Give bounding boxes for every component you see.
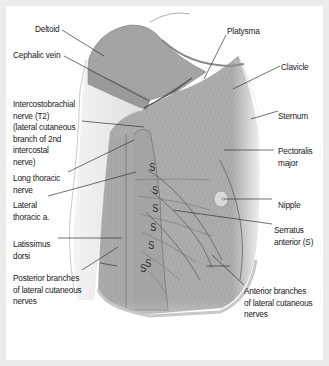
label-nipple: Nipple <box>278 199 300 211</box>
serratus-marker: S <box>148 240 154 251</box>
serratus-marker: S <box>152 185 158 196</box>
label-lateral-thoracic-artery: Lateral thoracic a. <box>13 199 49 222</box>
serratus-marker: S <box>150 222 156 233</box>
serratus-marker: S <box>140 263 146 274</box>
label-cephalic-vein: Cephalic vein <box>13 49 60 61</box>
label-serratus-anterior: Serratus anterior (S) <box>274 224 313 247</box>
label-pectoralis-major: Pectoralis major <box>278 145 313 168</box>
figure-panel: Deltoid Cephalic vein Intercostobrachial… <box>6 6 323 360</box>
serratus-marker: S <box>152 203 158 214</box>
label-long-thoracic-nerve: Long thoracic nerve <box>13 172 60 195</box>
label-deltoid: Deltoid <box>35 23 59 35</box>
label-clavicle: Clavicle <box>281 61 309 73</box>
label-platysma: Platysma <box>227 25 260 37</box>
label-latissimus-dorsi: Latissimus dorsi <box>13 238 50 261</box>
label-anterior-branches: Anterior branches of lateral cutaneous n… <box>244 285 313 320</box>
label-intercostobrachial-nerve: Intercostobrachial nerve (T2) (lateral c… <box>13 98 75 168</box>
serratus-marker: S <box>149 162 155 173</box>
label-posterior-branches: Posterior branches of lateral cutaneous … <box>13 272 82 307</box>
label-sternum: Sternum <box>278 110 308 122</box>
